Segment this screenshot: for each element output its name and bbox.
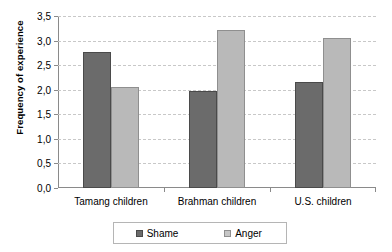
bar-shame-2 [295, 82, 323, 188]
x-axis-category-separator [164, 188, 165, 192]
y-axis-tick-label: 1,5 [37, 109, 51, 120]
y-axis-tick-label: 1,0 [37, 133, 51, 144]
bar-anger-1 [217, 30, 245, 188]
bar-chart-figure: Frequency of experience 0,00,51,01,52,02… [0, 0, 392, 252]
y-axis-tick-label: 2,5 [37, 60, 51, 71]
y-axis-title: Frequency of experience [14, 0, 25, 163]
y-axis-tick-label: 0,5 [37, 158, 51, 169]
x-axis-category-label: U.S. children [294, 196, 351, 207]
bar-shame-0 [83, 52, 111, 188]
bar-anger-2 [323, 38, 351, 188]
y-axis-tick-mark [54, 188, 58, 189]
bar-shame-1 [189, 91, 217, 188]
bar-group [58, 16, 376, 188]
bar-anger-0 [111, 87, 139, 188]
legend-item-anger: Anger [200, 228, 286, 239]
legend-swatch-anger-icon [224, 230, 231, 237]
plot-area: 0,00,51,01,52,02,53,03,5 Tamang children… [58, 16, 376, 188]
x-axis-end-tick [375, 188, 376, 192]
y-axis-tick-label: 3,0 [37, 35, 51, 46]
y-axis-tick-label: 3,5 [37, 11, 51, 22]
legend-label-shame: Shame [147, 228, 179, 239]
chart-legend: Shame Anger [113, 222, 287, 244]
x-axis-category-label: Brahman children [178, 196, 256, 207]
x-axis-category-separator [270, 188, 271, 192]
legend-item-shame: Shame [114, 228, 200, 239]
legend-label-anger: Anger [235, 228, 262, 239]
y-axis-tick-label: 2,0 [37, 84, 51, 95]
y-axis-tick-label: 0,0 [37, 183, 51, 194]
legend-swatch-shame-icon [136, 230, 143, 237]
x-axis-category-label: Tamang children [74, 196, 147, 207]
